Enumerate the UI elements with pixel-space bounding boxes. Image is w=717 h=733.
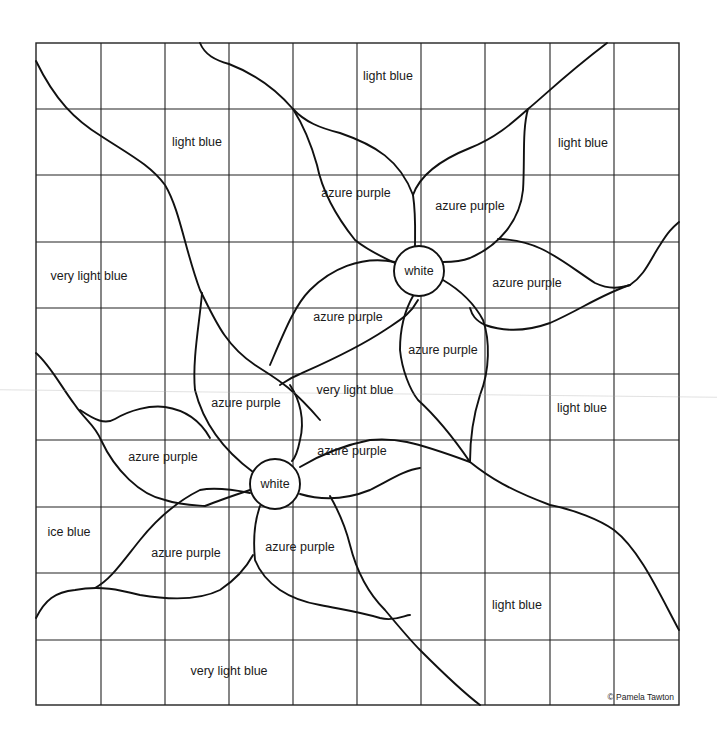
coloring-page xyxy=(0,0,717,733)
center-label-lower: white xyxy=(260,478,289,491)
region-label: very light blue xyxy=(190,665,267,678)
region-label: azure purple xyxy=(408,344,478,357)
center-label-upper: white xyxy=(404,265,433,278)
region-label: azure purple xyxy=(317,445,387,458)
region-label: very light blue xyxy=(50,270,127,283)
region-label: azure purple xyxy=(151,547,221,560)
region-label: azure purple xyxy=(128,451,198,464)
region-label: azure purple xyxy=(321,187,391,200)
region-label: light blue xyxy=(558,137,608,150)
region-label: azure purple xyxy=(313,311,383,324)
region-label: azure purple xyxy=(492,277,562,290)
region-label: azure purple xyxy=(435,200,505,213)
copyright-credit: © Pamela Tawton xyxy=(607,692,674,702)
region-label: very light blue xyxy=(316,384,393,397)
region-label: light blue xyxy=(172,136,222,149)
region-label: ice blue xyxy=(47,526,90,539)
region-label: light blue xyxy=(492,599,542,612)
region-label: azure purple xyxy=(211,397,281,410)
region-label: light blue xyxy=(557,402,607,415)
region-label: light blue xyxy=(363,70,413,83)
region-label: azure purple xyxy=(265,541,335,554)
